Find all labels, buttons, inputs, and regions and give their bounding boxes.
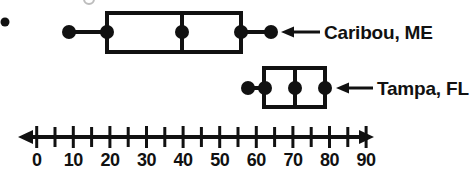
axis-arrow-left-icon	[18, 130, 33, 144]
min-dot-caribou	[62, 25, 76, 39]
axis-tick-label-30: 30	[137, 150, 156, 171]
axis-tick-label-70: 70	[283, 150, 302, 171]
axis-tick-label-80: 80	[320, 150, 339, 171]
median-dot-tampa	[288, 81, 302, 95]
axis-tick-label-90: 90	[357, 150, 376, 171]
axis-tick-label-0: 0	[32, 150, 42, 171]
box-caribou	[107, 13, 241, 52]
box-plot-figure: Caribou, ME Tampa, FL 0 10 20 30 40 50 6…	[0, 0, 474, 174]
stray-bullet-dot	[1, 18, 10, 27]
number-line-axis	[18, 126, 374, 148]
box-plot-tampa	[241, 68, 373, 107]
q3-dot-tampa	[318, 81, 332, 95]
box-plot-caribou	[62, 13, 320, 52]
max-dot-caribou	[264, 25, 278, 39]
median-dot-caribou	[175, 25, 189, 39]
arrow-left-icon-caribou	[281, 27, 320, 38]
arrow-left-icon-tampa	[336, 83, 373, 94]
q1-dot-tampa	[258, 81, 272, 95]
series-label-tampa: Tampa, FL	[377, 78, 469, 100]
axis-tick-label-20: 20	[100, 150, 119, 171]
axis-tick-label-60: 60	[247, 150, 266, 171]
q1-dot-caribou	[100, 25, 114, 39]
series-label-caribou: Caribou, ME	[324, 22, 433, 44]
faint-circle-artifact	[84, 0, 94, 4]
axis-tick-label-50: 50	[210, 150, 229, 171]
q3-dot-caribou	[234, 25, 248, 39]
axis-tick-label-10: 10	[64, 150, 83, 171]
axis-tick-label-40: 40	[174, 150, 193, 171]
min-dot-tampa	[241, 81, 255, 95]
